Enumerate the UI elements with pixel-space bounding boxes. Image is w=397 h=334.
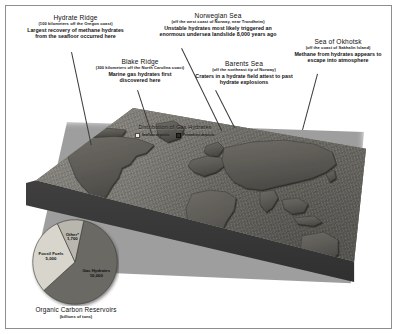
pie-svg (31, 218, 119, 306)
organic-carbon-pie-chart: Gas Hydrates 10,000 Fossil Fuels 5,000 O… (31, 218, 123, 328)
callout-hydrate-ridge: Hydrate Ridge (100 kilometers off the Or… (8, 14, 143, 40)
map-title: Distribution of Gas Hydrates (115, 124, 235, 130)
callout-title-norwegian-sea: Norwegian Sea (143, 12, 293, 19)
pie-slices (33, 220, 117, 304)
callout-body-sea-of-okhotsk: Methane from hydrates appears to escape … (282, 52, 394, 64)
callout-body-line: enormous undersea landslide 8,000 years … (143, 32, 293, 38)
callout-body-hydrate-ridge: Largest recovery of methane hydrates fro… (8, 28, 143, 40)
legend-label-seafloor: Seafloor deposits (142, 133, 170, 137)
pie-caption-subtitle: (billions of tons) (21, 314, 131, 319)
callout-title-hydrate-ridge: Hydrate Ridge (8, 14, 143, 21)
map-legend: Seafloor deposits Permafrost deposits (105, 133, 245, 138)
callout-body-line: from the seafloor occurred here (8, 34, 143, 40)
legend-swatch-seafloor-icon (135, 133, 140, 138)
callout-sea-of-okhotsk: Sea of Okhotsk (off the coast of Sakhali… (282, 38, 394, 64)
callout-body-barents-sea: Craters in a hydrate field attest to pas… (180, 74, 308, 86)
figure-root: Distribution of Gas Hydrates Seafloor de… (0, 0, 397, 334)
legend-label-permafrost: Permafrost deposits (183, 133, 215, 137)
callout-norwegian-sea: Norwegian Sea (off the west coast of Nor… (143, 12, 293, 38)
callout-barents-sea: Barents Sea (off the northeast tip of No… (180, 60, 308, 86)
callout-body-norwegian-sea: Unstable hydrates most likely triggered … (143, 26, 293, 38)
pie-caption: Organic Carbon Reservoirs (billions of t… (21, 306, 131, 319)
callout-body-line: escape into atmosphere (282, 58, 394, 64)
legend-swatch-permafrost-icon (176, 133, 181, 138)
callout-body-line: hydrate explosions (180, 80, 308, 86)
legend-item-permafrost: Permafrost deposits (176, 133, 214, 138)
pie-caption-title: Organic Carbon Reservoirs (21, 306, 131, 313)
callout-title-sea-of-okhotsk: Sea of Okhotsk (282, 38, 394, 45)
